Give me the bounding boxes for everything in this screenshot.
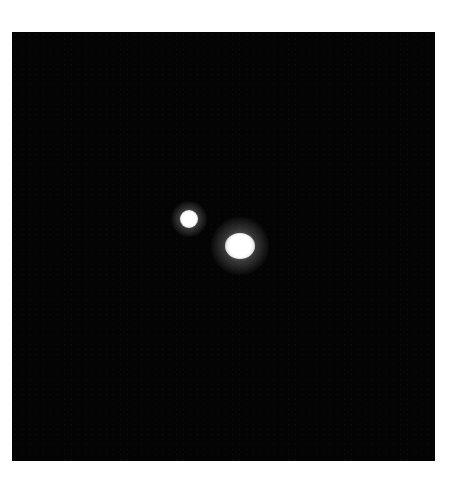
large-source <box>225 233 255 259</box>
image-frame <box>12 32 435 461</box>
small-source <box>180 210 198 228</box>
